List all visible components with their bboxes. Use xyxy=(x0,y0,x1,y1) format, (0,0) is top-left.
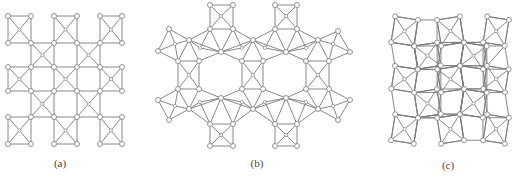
lattice-node xyxy=(6,65,11,70)
bond-edge xyxy=(391,140,414,144)
lattice-node xyxy=(435,67,440,72)
bond-edge xyxy=(221,89,242,98)
lattice-node xyxy=(261,59,266,64)
lattice-node xyxy=(98,65,103,70)
bond-edge xyxy=(221,52,242,61)
lattice-node xyxy=(434,87,439,92)
bond-edge xyxy=(306,40,318,61)
lattice-node xyxy=(109,129,112,132)
lattice-node xyxy=(304,59,309,64)
bond-edge xyxy=(460,43,464,66)
lattice-node xyxy=(284,14,287,17)
bond-edge xyxy=(286,52,306,61)
bond-edge xyxy=(395,16,418,20)
bond-edge xyxy=(414,46,417,69)
bond-edge xyxy=(318,89,329,109)
lattice-node xyxy=(484,63,489,68)
lattice-node xyxy=(435,40,440,45)
lattice-node xyxy=(435,17,440,22)
bond-edge xyxy=(505,69,509,92)
lattice-node xyxy=(240,59,245,64)
lattice-node xyxy=(393,112,398,117)
lattice-node xyxy=(219,133,222,136)
lattice-node xyxy=(438,112,443,117)
lattice-node xyxy=(403,29,406,32)
lattice-node xyxy=(98,89,103,94)
lattice-node xyxy=(120,41,125,46)
lattice-node xyxy=(426,54,429,57)
bond-edge xyxy=(275,98,286,124)
bond-edge xyxy=(158,89,178,100)
lattice-node xyxy=(348,98,353,103)
lattice-node xyxy=(52,142,57,147)
lattice-node xyxy=(75,89,80,94)
lattice-node xyxy=(109,77,112,80)
lattice-node xyxy=(29,65,34,70)
bond-edge xyxy=(460,66,464,89)
bond-edge xyxy=(505,92,509,118)
lattice-node xyxy=(251,107,256,112)
bond-edge xyxy=(391,66,395,89)
lattice-node xyxy=(52,41,57,46)
lattice-node xyxy=(231,3,236,8)
lattice-node xyxy=(316,38,321,43)
bond-edge xyxy=(199,89,221,98)
lattice-node xyxy=(415,67,420,72)
lattice-node xyxy=(389,138,394,143)
bond-edge xyxy=(221,40,253,52)
lattice-node xyxy=(64,129,67,132)
lattice-node xyxy=(176,87,181,92)
lattice-node xyxy=(284,50,289,55)
lattice-node xyxy=(197,87,202,92)
panel-label-a: (a) xyxy=(54,157,66,169)
bond-edge xyxy=(318,40,329,61)
lattice-node xyxy=(173,104,176,107)
bond-edge xyxy=(460,114,464,140)
lattice-node xyxy=(167,27,172,32)
lattice-node xyxy=(484,90,489,95)
bond-edge xyxy=(414,69,418,92)
lattice-node xyxy=(231,27,236,32)
lattice-node xyxy=(219,96,224,101)
lattice-node xyxy=(87,53,90,56)
lattice-node xyxy=(52,14,57,19)
lattice-node xyxy=(412,90,417,95)
lattice-node xyxy=(426,102,429,105)
lattice-node xyxy=(273,122,278,127)
lattice-node xyxy=(485,14,490,19)
lattice-node xyxy=(316,107,321,112)
lattice-node xyxy=(331,42,334,45)
lattice-node xyxy=(457,112,462,117)
lattice-node xyxy=(484,44,489,49)
lattice-node xyxy=(98,115,103,120)
bond-edge xyxy=(414,20,418,46)
lattice-node xyxy=(52,65,57,70)
bond-edge xyxy=(487,46,505,66)
lattice-node xyxy=(75,65,80,70)
lattice-node xyxy=(392,63,397,68)
lattice-node xyxy=(327,87,332,92)
bond-edge xyxy=(391,42,395,66)
lattice-node xyxy=(120,65,125,70)
lattice-node xyxy=(231,122,236,127)
lattice-node xyxy=(316,73,319,76)
lattice-node xyxy=(240,100,243,103)
lattice-node xyxy=(6,14,11,19)
lattice-node xyxy=(502,141,507,146)
lattice-node xyxy=(29,14,34,19)
lattice-node xyxy=(120,14,125,19)
lattice-node xyxy=(75,41,80,46)
lattice-node xyxy=(461,138,466,143)
lattice-node xyxy=(393,14,398,19)
figure-canvas xyxy=(0,0,513,180)
lattice-node xyxy=(331,104,334,107)
lattice-node xyxy=(389,86,394,91)
bond-edge xyxy=(483,16,487,42)
lattice-node xyxy=(295,27,300,32)
bond-edge xyxy=(505,118,509,144)
lattice-node xyxy=(480,115,485,120)
lattice-node xyxy=(156,49,161,54)
lattice-node xyxy=(75,14,80,19)
lattice-node xyxy=(415,17,420,22)
bond-edge xyxy=(505,46,509,70)
